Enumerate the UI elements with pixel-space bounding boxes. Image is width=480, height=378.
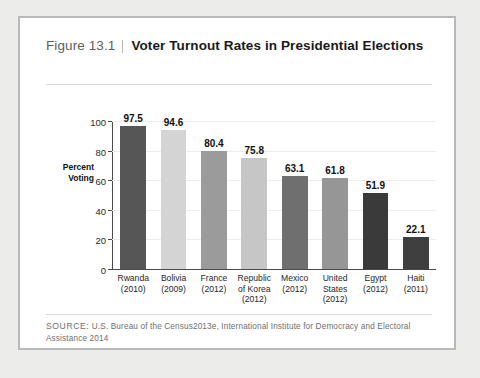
bar-slot: 61.8 bbox=[315, 122, 355, 269]
figure-heading: Figure 13.1Voter Turnout Rates in Presid… bbox=[46, 36, 432, 56]
source-note: SOURCE: U.S. Bureau of the Census2013e, … bbox=[46, 320, 416, 345]
figure-card: Figure 13.1Voter Turnout Rates in Presid… bbox=[18, 16, 456, 350]
bar-value-label: 22.1 bbox=[406, 224, 425, 235]
x-axis-label: France(2012) bbox=[194, 273, 234, 305]
page-title: Voter Turnout Rates in Presidential Elec… bbox=[131, 38, 423, 53]
bar-value-label: 63.1 bbox=[285, 163, 304, 174]
bar[interactable]: 51.9 bbox=[363, 193, 389, 269]
x-axis-label-line: Rwanda bbox=[114, 273, 152, 284]
title-divider bbox=[122, 40, 123, 53]
bar-chart: Percent Voting 020406080100 97.594.680.4… bbox=[46, 94, 438, 302]
x-axis-label-line: (2012) bbox=[276, 284, 314, 295]
x-axis-label: Republicof Korea(2012) bbox=[234, 273, 274, 305]
bar[interactable]: 75.8 bbox=[241, 158, 267, 269]
bar-value-label: 51.9 bbox=[366, 180, 385, 191]
x-axis-label: Bolivia(2009) bbox=[153, 273, 193, 305]
y-tick-mark bbox=[108, 121, 112, 122]
x-axis-label-line: (2012) bbox=[356, 284, 394, 295]
bar-value-label: 97.5 bbox=[123, 113, 142, 124]
bar-slot: 22.1 bbox=[396, 122, 436, 269]
bar[interactable]: 97.5 bbox=[120, 126, 146, 269]
x-axis-label-line: States bbox=[316, 284, 354, 295]
source-divider-rule bbox=[46, 314, 432, 315]
x-axis-label: UnitedStates(2012) bbox=[315, 273, 355, 305]
bar-value-label: 61.8 bbox=[325, 165, 344, 176]
bar-slot: 63.1 bbox=[275, 122, 315, 269]
x-axis-labels: Rwanda(2010)Bolivia(2009)France(2012)Rep… bbox=[113, 273, 436, 305]
y-axis-title-line-2: Voting bbox=[46, 173, 94, 184]
bar-slot: 75.8 bbox=[234, 122, 274, 269]
x-axis-label-line: (2009) bbox=[154, 284, 192, 295]
bar-slot: 51.9 bbox=[355, 122, 395, 269]
x-axis-label-line: Bolivia bbox=[154, 273, 192, 284]
x-axis-label-line: Republic bbox=[235, 273, 273, 284]
bar[interactable]: 61.8 bbox=[322, 178, 348, 269]
y-tick-label: 20 bbox=[95, 235, 106, 246]
bar[interactable]: 80.4 bbox=[201, 151, 227, 269]
y-tick-label: 100 bbox=[90, 117, 106, 128]
y-axis-title-line-1: Percent bbox=[46, 162, 94, 173]
y-axis-title: Percent Voting bbox=[46, 162, 94, 184]
x-axis-label: Mexico(2012) bbox=[275, 273, 315, 305]
title-divider-rule bbox=[46, 84, 432, 85]
bar-value-label: 75.8 bbox=[245, 145, 264, 156]
x-axis-label: Egypt(2012) bbox=[355, 273, 395, 305]
y-tick-mark bbox=[108, 210, 112, 211]
x-axis-line bbox=[112, 269, 436, 270]
y-tick-label: 80 bbox=[95, 146, 106, 157]
x-axis-label-line: of Korea bbox=[235, 284, 273, 295]
y-tick-mark bbox=[108, 151, 112, 152]
figure-number: Figure 13.1 bbox=[46, 38, 115, 53]
x-axis-label-line: (2011) bbox=[397, 284, 435, 295]
source-citation: U.S. Bureau of the Census2013e, Internat… bbox=[46, 322, 411, 343]
x-axis-label: Haiti(2011) bbox=[396, 273, 436, 305]
x-axis-label-line: Haiti bbox=[397, 273, 435, 284]
x-axis-label-line: France bbox=[195, 273, 233, 284]
figure-title-block: Figure 13.1Voter Turnout Rates in Presid… bbox=[46, 36, 432, 56]
x-axis-label-line: (2012) bbox=[316, 294, 354, 305]
bar[interactable]: 63.1 bbox=[282, 176, 308, 269]
bar-slot: 97.5 bbox=[113, 122, 153, 269]
x-axis-label-line: (2010) bbox=[114, 284, 152, 295]
bar-slot: 80.4 bbox=[194, 122, 234, 269]
y-tick-label: 40 bbox=[95, 205, 106, 216]
x-axis-label-line: (2012) bbox=[195, 284, 233, 295]
bar-slot: 94.6 bbox=[153, 122, 193, 269]
x-axis-label-line: (2012) bbox=[235, 294, 273, 305]
x-axis-label-line: Mexico bbox=[276, 273, 314, 284]
x-axis-label: Rwanda(2010) bbox=[113, 273, 153, 305]
y-tick-label: 60 bbox=[95, 176, 106, 187]
bar-value-label: 80.4 bbox=[204, 138, 223, 149]
x-axis-label-line: Egypt bbox=[356, 273, 394, 284]
bar-value-label: 94.6 bbox=[164, 117, 183, 128]
plot-area: 020406080100 97.594.680.475.863.161.851.… bbox=[112, 122, 436, 270]
y-tick-mark bbox=[108, 180, 112, 181]
x-axis-label-line: United bbox=[316, 273, 354, 284]
bar[interactable]: 22.1 bbox=[403, 237, 429, 269]
bar[interactable]: 94.6 bbox=[161, 130, 187, 269]
y-tick-mark bbox=[108, 269, 112, 270]
bar-series: 97.594.680.475.863.161.851.922.1 bbox=[113, 122, 436, 269]
y-tick-label: 0 bbox=[101, 265, 106, 276]
plot-wrapper: 020406080100 97.594.680.475.863.161.851.… bbox=[98, 122, 438, 302]
source-keyword: SOURCE: bbox=[46, 321, 89, 331]
y-tick-mark bbox=[108, 239, 112, 240]
